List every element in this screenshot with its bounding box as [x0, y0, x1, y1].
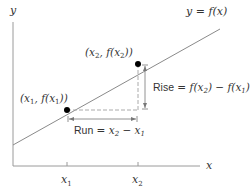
x1-tick-label: x1 — [61, 173, 72, 188]
slope-diagram: y x x1 x2 y = f(x) (x1, f(x1)) (x2, f(x2… — [0, 0, 250, 191]
point-1 — [64, 107, 70, 113]
x-axis-label: x — [206, 159, 213, 172]
run-arrowhead-right — [131, 117, 136, 121]
point-1-label: (x1, f(x1)) — [20, 92, 68, 106]
rise-arrowhead-bottom — [143, 103, 147, 108]
rise-arrowhead-top — [143, 66, 147, 71]
point-2-label: (x2, f(x2)) — [85, 46, 133, 60]
y-axis-label: y — [9, 4, 17, 17]
run-arrowhead-left — [69, 117, 74, 121]
run-label: Run = x2 − x1 — [74, 124, 145, 138]
function-label: y = f(x) — [185, 5, 227, 18]
rise-label: Rise = f(x2) − f(x1) — [153, 81, 250, 95]
x2-tick-label: x2 — [132, 173, 143, 188]
point-2 — [135, 61, 141, 67]
